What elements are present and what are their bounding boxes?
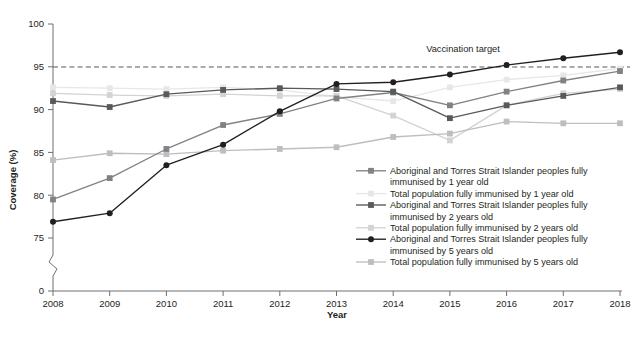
- data-point: [220, 87, 226, 93]
- data-point: [50, 197, 56, 203]
- legend-label: Aboriginal and Torres Strait Islander pe…: [390, 200, 588, 210]
- legend-label: Aboriginal and Torres Strait Islander pe…: [390, 166, 588, 176]
- legend-swatch-marker: [368, 225, 374, 231]
- data-point: [617, 68, 623, 74]
- data-point: [50, 90, 56, 96]
- data-point: [50, 157, 56, 163]
- data-point: [107, 175, 113, 181]
- legend-swatch-marker: [368, 168, 374, 174]
- data-point: [447, 115, 453, 121]
- line-chart: 10095908580750 Coverage (%) 200820092010…: [0, 0, 637, 342]
- y-axis-title: Coverage (%): [7, 150, 18, 211]
- data-point: [220, 142, 226, 148]
- legend-swatch-marker: [368, 202, 374, 208]
- data-point: [220, 122, 226, 128]
- data-point: [617, 84, 623, 90]
- data-point: [447, 72, 453, 78]
- y-tick-label: 85: [33, 147, 44, 158]
- x-tick-label: 2013: [326, 298, 347, 309]
- data-point: [617, 49, 623, 55]
- data-point: [277, 93, 283, 99]
- y-tick-label-zero: 0: [39, 285, 44, 296]
- vaccination-target-label: Vaccination target: [426, 44, 500, 54]
- legend-label-cont: immunised by 5 years old: [390, 246, 493, 256]
- y-tick-label: 80: [33, 190, 44, 201]
- data-point: [164, 146, 170, 152]
- x-tick-label: 2012: [269, 298, 290, 309]
- data-point: [390, 98, 396, 104]
- data-point: [220, 148, 226, 154]
- x-tick-label: 2011: [213, 298, 233, 309]
- x-tick-label: 2014: [383, 298, 404, 309]
- data-point: [390, 89, 396, 95]
- data-point: [107, 150, 113, 156]
- x-tick-label: 2010: [156, 298, 177, 309]
- data-point: [447, 84, 453, 90]
- y-tick-label: 100: [28, 18, 44, 29]
- data-point: [334, 86, 340, 92]
- data-point: [107, 104, 113, 110]
- data-point: [50, 84, 56, 90]
- x-axis-title: Year: [327, 309, 347, 320]
- data-point: [164, 91, 170, 97]
- data-point: [560, 93, 566, 99]
- y-tick-label: 95: [33, 61, 44, 72]
- data-point: [277, 108, 283, 114]
- data-point: [504, 119, 510, 125]
- data-point: [560, 72, 566, 78]
- data-point: [504, 77, 510, 83]
- data-point: [390, 134, 396, 140]
- x-tick-label: 2015: [439, 298, 460, 309]
- x-tick-label: 2018: [609, 298, 630, 309]
- data-point: [163, 162, 169, 168]
- legend-item-tot_5yr[interactable]: Total population fully immunised by 5 ye…: [356, 257, 578, 267]
- legend-label: Total population fully immunised by 2 ye…: [390, 223, 578, 233]
- legend-label-cont: immunised by 1 year old: [390, 177, 489, 187]
- legend-item-tot_2yr[interactable]: Total population fully immunised by 2 ye…: [356, 223, 578, 233]
- data-point: [164, 151, 170, 157]
- data-point: [107, 85, 113, 91]
- legend-label: Aboriginal and Torres Strait Islander pe…: [390, 234, 588, 244]
- data-point: [334, 81, 340, 87]
- legend-label: Total population fully immunised by 5 ye…: [390, 257, 578, 267]
- data-point: [504, 62, 510, 68]
- data-point: [617, 120, 623, 126]
- data-point: [390, 79, 396, 85]
- x-tick-label: 2017: [553, 298, 574, 309]
- data-point: [107, 210, 113, 216]
- data-point: [447, 102, 453, 108]
- data-point: [164, 86, 170, 92]
- legend-swatch-marker: [368, 259, 374, 265]
- data-point: [107, 92, 113, 98]
- legend-swatch-marker: [368, 236, 374, 242]
- data-point: [50, 219, 56, 225]
- data-point: [504, 89, 510, 95]
- data-point: [560, 55, 566, 61]
- data-point: [277, 85, 283, 91]
- data-point: [334, 96, 340, 102]
- data-point: [277, 146, 283, 152]
- data-point: [334, 144, 340, 150]
- legend-label: Total population fully immunised by 1 ye…: [390, 189, 574, 199]
- x-tick-label: 2016: [496, 298, 517, 309]
- y-tick-label: 75: [33, 232, 44, 243]
- data-point: [560, 120, 566, 126]
- data-point: [560, 78, 566, 84]
- legend-swatch-marker: [368, 191, 374, 197]
- data-point: [504, 102, 510, 108]
- legend-label-cont: immunised by 2 years old: [390, 212, 493, 222]
- data-point: [447, 138, 453, 144]
- x-tick-label: 2009: [99, 298, 120, 309]
- data-point: [447, 131, 453, 137]
- x-tick-label: 2008: [42, 298, 63, 309]
- y-tick-label: 90: [33, 104, 44, 115]
- data-point: [50, 98, 56, 104]
- data-point: [390, 113, 396, 119]
- chart-container: 10095908580750 Coverage (%) 200820092010…: [0, 0, 637, 342]
